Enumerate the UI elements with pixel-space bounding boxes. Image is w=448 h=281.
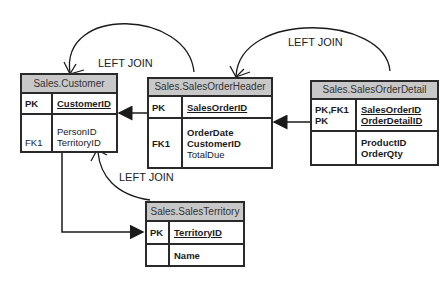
entity-sales-order-detail: Sales.SalesOrderDetail PK,FK1 PK SalesOr… — [310, 80, 439, 166]
fk-key-label: FK1 — [152, 138, 178, 149]
left-join-label-3: LEFT JOIN — [119, 171, 174, 183]
pk-column: OrderDetailID — [361, 115, 422, 126]
entity-sales-order-header: Sales.SalesOrderHeader PK SalesOrderID F… — [147, 77, 273, 169]
left-join-label-2: LEFT JOIN — [288, 36, 343, 48]
entity-title: Sales.Customer — [22, 75, 116, 94]
pk-key-label: PK — [150, 227, 165, 238]
left-join-label-1: LEFT JOIN — [98, 57, 153, 69]
column: ProductID — [361, 137, 406, 148]
fk-key-label: FK1 — [25, 137, 48, 148]
pk-column: TerritoryID — [174, 227, 222, 238]
pk-key-label: PK — [315, 115, 352, 126]
pk-fk-key-label: PK,FK1 — [315, 104, 352, 115]
entity-title: Sales.SalesTerritory — [147, 203, 243, 222]
pk-column: SalesOrderID — [187, 102, 247, 113]
column: CustomerID — [187, 138, 241, 149]
column: TotalDue — [187, 149, 241, 160]
column: Name — [174, 250, 200, 261]
pk-key-label: PK — [152, 102, 178, 113]
entity-sales-territory: Sales.SalesTerritory PK TerritoryID Name — [145, 201, 245, 267]
column: PersonID — [57, 126, 101, 137]
entity-title: Sales.SalesOrderDetail — [312, 82, 437, 100]
column: TerritoryID — [57, 137, 101, 148]
entity-sales-customer: Sales.Customer PK CustomerID FK1 PersonI… — [20, 73, 118, 153]
fk-line-customer-territory — [62, 152, 143, 232]
pk-column: SalesOrderID — [361, 104, 422, 115]
column: OrderQty — [361, 148, 406, 159]
left-join-arc-2 — [236, 28, 390, 76]
pk-column: CustomerID — [57, 98, 111, 109]
pk-key-label: PK — [25, 98, 48, 109]
column: OrderDate — [187, 127, 241, 138]
entity-title: Sales.SalesOrderHeader — [149, 79, 271, 97]
